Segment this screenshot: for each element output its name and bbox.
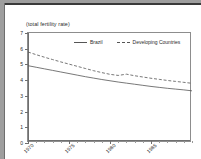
x-tick-label: 1970 (23, 143, 35, 154)
y-tick-label: 1 (20, 125, 23, 130)
y-tick-label: 2 (20, 109, 23, 114)
document-page: (total fertility rate) 01234567 19701975… (5, 5, 201, 159)
y-tick-label: 3 (20, 93, 23, 98)
legend-swatch (74, 42, 87, 43)
legend-label: Brazil (90, 40, 103, 45)
chart-legend: BrazilDeveloping Countries (74, 40, 180, 45)
x-tick-minor (192, 141, 193, 143)
y-tick-label: 0 (20, 141, 23, 146)
plot-area: 01234567 1970197519801985 BrazilDevelopi… (27, 32, 191, 142)
x-tick-label: 1975 (64, 143, 76, 154)
y-tick-label: 7 (20, 31, 23, 36)
series-line-developing-countries (28, 52, 192, 83)
series-line-brazil (28, 66, 192, 91)
x-tick-label: 1985 (146, 143, 158, 154)
legend-swatch (117, 42, 130, 43)
legend-label: Developing Countries (133, 40, 181, 45)
x-tick-label: 1980 (105, 143, 117, 154)
screenshot-root: (total fertility rate) 01234567 19701975… (0, 0, 201, 159)
legend-item-developing-countries: Developing Countries (117, 40, 181, 45)
chart-title: (total fertility rate) (26, 21, 70, 27)
y-tick-label: 5 (20, 62, 23, 67)
y-tick-label: 4 (20, 78, 23, 83)
y-tick-label: 6 (20, 46, 23, 51)
series-lines (28, 33, 192, 143)
legend-item-brazil: Brazil (74, 40, 103, 45)
